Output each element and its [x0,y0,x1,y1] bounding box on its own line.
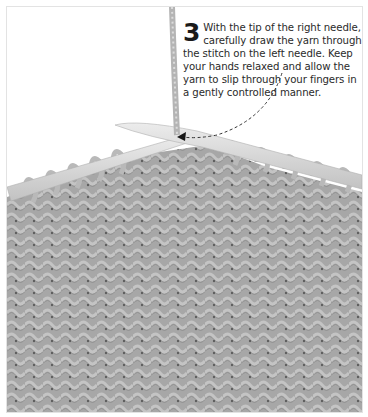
step-number: 3 [183,22,200,44]
yarn-strand [172,7,177,135]
step-caption: 3 With the tip of the right needle, care… [183,21,363,99]
illustration-frame: 3 With the tip of the right needle, care… [6,6,363,413]
step-text: With the tip of the right needle, carefu… [183,22,362,98]
